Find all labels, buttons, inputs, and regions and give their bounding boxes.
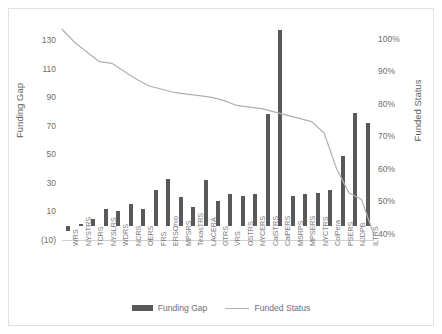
legend-bar-swatch-icon (132, 305, 153, 311)
x-tick-label: MPSRS (184, 220, 193, 246)
x-tick-label: WDRS (121, 224, 130, 246)
legend-label-funding-gap: Funding Gap (158, 303, 208, 313)
y-tick-right: 80% (378, 99, 395, 109)
x-tick-label: ILTRS (371, 226, 380, 246)
x-tick-label: TCRS (96, 226, 105, 246)
legend-line-swatch-icon (225, 308, 249, 309)
chart-container: 1301109070503010(10) 100%90%80%70%60%50%… (0, 0, 442, 334)
y-tick-left: (10) (41, 235, 56, 245)
line-series-funded-status (62, 26, 374, 240)
x-tick-label: TexasTRS (196, 213, 205, 246)
x-tick-label: CalPERS (283, 216, 292, 246)
y-tick-left: 30 (47, 178, 56, 188)
y-axis-left-title: Funding Gap (14, 66, 25, 156)
x-tick-label: CalSTRS (271, 216, 280, 246)
legend-item-funded-status: Funded Status (225, 303, 310, 313)
y-axis-right-title: Funded Status (412, 66, 423, 156)
y-tick-left: 130 (42, 35, 56, 45)
x-tick-label: NYCTRS (321, 216, 330, 246)
y-tick-right: 50% (378, 196, 395, 206)
x-tick-label: NYSTRS (84, 217, 93, 246)
y-tick-left: 10 (47, 206, 56, 216)
x-tick-label: FRS (159, 232, 168, 246)
chart-legend: Funding Gap Funded Status (0, 303, 442, 313)
y-tick-left: 70 (47, 121, 56, 131)
x-tick-label: NYCERS (258, 216, 267, 246)
legend-label-funded-status: Funded Status (254, 303, 310, 313)
y-tick-right: 70% (378, 131, 395, 141)
legend-item-funding-gap: Funding Gap (132, 303, 208, 313)
x-tick-label: PSERS (346, 222, 355, 246)
y-tick-right: 90% (378, 66, 395, 76)
x-tick-label: OSTRS (246, 221, 255, 246)
funded-status-polyline (62, 29, 374, 235)
x-tick-label: MPSERS (308, 216, 317, 246)
x-tick-label: NJDPB (358, 222, 367, 246)
x-tick-label: GTRS (221, 226, 230, 246)
y-tick-left: 50 (47, 149, 56, 159)
y-tick-right: 100% (378, 34, 400, 44)
x-tick-label: OERS (146, 226, 155, 246)
x-tick-label: NCRS (134, 226, 143, 246)
x-tick-label: NYSLRS (109, 217, 118, 246)
y-tick-left: 110 (42, 64, 56, 74)
x-tick-label: VRS (233, 231, 242, 246)
x-tick-label: WRS (71, 229, 80, 246)
y-axis-left-ticks: 1301109070503010(10) (0, 26, 56, 240)
y-tick-right: 40% (378, 229, 395, 239)
y-axis-right-ticks: 100%90%80%70%60%50%40% (378, 26, 412, 240)
x-axis-labels: WRSNYSTRSTCRSNYSLRSWDRSNCRSOERSFRSERSOhi… (62, 244, 374, 302)
x-tick-label: LACERA (209, 217, 218, 246)
x-tick-label: ERSOhio (171, 216, 180, 246)
y-tick-right: 60% (378, 164, 395, 174)
x-tick-label: ColPera (333, 220, 342, 246)
x-tick-label: MSRPS (296, 220, 305, 246)
y-tick-left: 90 (47, 92, 56, 102)
